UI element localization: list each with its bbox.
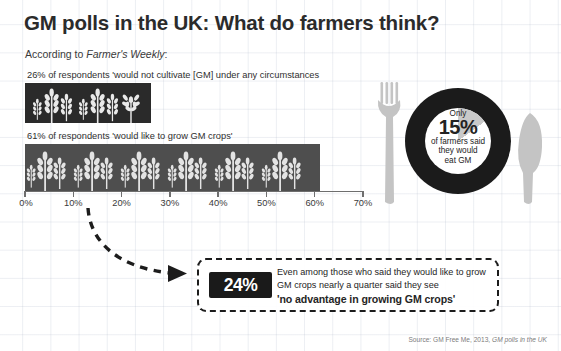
fork-icon: [378, 82, 400, 204]
x-tick-70%: [362, 191, 363, 197]
bar-label-2: 61% of respondents 'would like to grow G…: [27, 131, 233, 141]
bar-chart: 26% of respondents 'would not cultivate …: [0, 0, 380, 215]
x-tick-label-0%: 0%: [19, 198, 32, 208]
curved-dashed-arrow-icon: [80, 205, 210, 290]
callout-text: Even among those who said they would lik…: [277, 266, 495, 307]
x-tick-60%: [314, 191, 315, 197]
x-tick-20%: [121, 191, 122, 197]
source-prefix: Source: GM Free Me, 2013,: [408, 336, 492, 343]
x-tick-label-70%: 70%: [354, 198, 373, 208]
plate-caption-line2: they would: [420, 146, 496, 155]
x-tick-label-40%: 40%: [209, 198, 228, 208]
callout-percent-badge: 24%: [209, 272, 272, 298]
x-tick-label-50%: 50%: [257, 198, 276, 208]
callout-emphasis: 'no advantage in growing GM crops': [277, 292, 495, 307]
plate-caption: Only 15% of farmers said they would eat …: [420, 109, 496, 165]
plate-stat: Only 15% of farmers said they would eat …: [372, 80, 557, 208]
x-tick-40%: [217, 191, 218, 197]
source-title: GM polls in the UK: [492, 336, 547, 343]
x-tick-10%: [73, 191, 74, 197]
bar-grow-gm: [25, 144, 320, 191]
plate-percent: 15%: [420, 117, 496, 137]
plate-caption-line3: eat GM: [420, 156, 496, 165]
knife-icon: [518, 113, 542, 204]
callout-line-1: Even among those who said they would lik…: [277, 267, 464, 277]
x-tick-label-60%: 60%: [305, 198, 324, 208]
plate-caption-line1: of farmers said: [420, 137, 496, 146]
x-axis-line: [25, 191, 363, 192]
x-tick-50%: [266, 191, 267, 197]
source-line: Source: GM Free Me, 2013, GM polls in th…: [408, 336, 547, 343]
infographic-canvas: GM polls in the UK: What do farmers thin…: [0, 0, 561, 351]
wheat-icon: [25, 144, 320, 191]
bar-not-cultivate: [25, 83, 151, 123]
bar-label-1: 26% of respondents 'would not cultivate …: [27, 70, 319, 80]
callout-percent-value: 24%: [224, 275, 258, 296]
callout-box: 24% Even among those who said they would…: [197, 258, 499, 312]
x-tick-0%: [24, 191, 25, 197]
wheat-crossed-icon: [25, 83, 151, 123]
x-tick-30%: [169, 191, 170, 197]
